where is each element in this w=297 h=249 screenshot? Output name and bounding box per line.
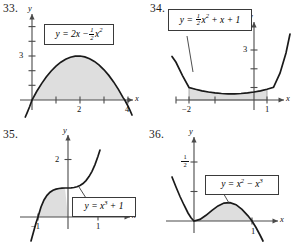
figure-panel-35: 35. y x 2 −1 1 y = bbox=[0, 125, 148, 249]
leader-line-34 bbox=[187, 36, 193, 72]
x-axis-label-36: x bbox=[280, 214, 284, 224]
x-axis-arrow-36 bbox=[273, 218, 279, 223]
y-axis-label-33: y bbox=[28, 3, 32, 13]
figure-panel-34: 34. y x 3 −2 1 bbox=[148, 0, 296, 124]
figure-panel-36: 36. y x 1 2 1 bbox=[148, 125, 296, 249]
y-tick-label-34-3: 3 bbox=[243, 44, 247, 54]
y-tick-label-33-3: 3 bbox=[19, 50, 23, 60]
figure-panel-33: 33. y x 3 2 4 bbox=[0, 0, 148, 124]
figure-sheet: 33. y x 3 2 4 bbox=[0, 0, 297, 249]
x-tick-label-33-4: 4 bbox=[125, 104, 129, 114]
x-tick-label-35-1: 1 bbox=[96, 221, 100, 231]
y-axis-arrow-34 bbox=[251, 22, 256, 28]
equation-box-33: y = 2x −12x2 bbox=[44, 24, 114, 45]
y-tick-label-36-half: 1 2 bbox=[181, 154, 189, 169]
x-tick-label-33-2: 2 bbox=[77, 104, 81, 114]
equation-text-33: y = 2x −12x2 bbox=[56, 27, 103, 42]
curve-34 bbox=[172, 34, 290, 94]
y-axis-label-36: y bbox=[189, 126, 193, 136]
x-tick-label-34-m2: −2 bbox=[182, 104, 191, 114]
x-axis-label-33: x bbox=[135, 93, 139, 103]
x-tick-label-34-1: 1 bbox=[265, 104, 269, 114]
x-tick-label-35-m1: −1 bbox=[31, 221, 40, 231]
y-axis-arrow-36 bbox=[191, 137, 196, 143]
y-axis-arrow-33 bbox=[29, 14, 34, 20]
x-tick-label-36-1: 1 bbox=[251, 226, 255, 236]
equation-text-35: y = x3 + 1 bbox=[85, 202, 124, 212]
equation-text-34: y = 12x2 + x + 1 bbox=[180, 13, 240, 28]
x-axis-label-34: x bbox=[286, 93, 290, 103]
equation-text-36: y = x2 − x3 bbox=[221, 180, 263, 190]
equation-box-36: y = x2 − x3 bbox=[205, 175, 279, 195]
graph-35 bbox=[0, 125, 148, 249]
y-tick-label-35-2: 2 bbox=[55, 154, 59, 164]
equation-box-34: y = 12x2 + x + 1 bbox=[168, 9, 252, 31]
y-axis-label-35: y bbox=[63, 125, 67, 135]
y-axis-arrow-35 bbox=[65, 135, 70, 141]
x-axis-arrow-34 bbox=[279, 97, 285, 102]
equation-box-35: y = x3 + 1 bbox=[72, 197, 136, 217]
